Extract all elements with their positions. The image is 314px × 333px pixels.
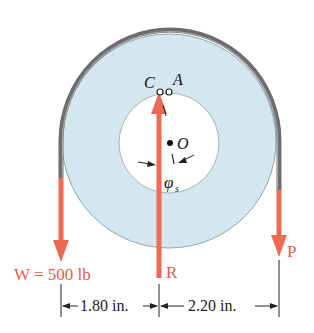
label-dim-left: 1.80 in. (80, 297, 128, 314)
dim-right-arrowhead-a (160, 303, 168, 309)
point-a-marker (166, 89, 172, 95)
label-point-a: A (172, 71, 183, 88)
dim-left-arrowhead-a (62, 303, 70, 309)
dim-left-arrowhead-b (150, 303, 158, 309)
label-angle-phi: φ (164, 173, 173, 192)
label-force-r: R (166, 263, 178, 282)
label-force-p: P (287, 242, 296, 261)
dim-right-arrowhead-b (270, 303, 278, 309)
label-weight: W = 500 lb (14, 265, 91, 284)
weight-arrow-head (53, 240, 69, 262)
point-c-marker (157, 89, 163, 95)
label-center-o: O (177, 135, 189, 152)
label-dim-right: 2.20 in. (188, 297, 236, 314)
label-angle-sub: s (175, 183, 179, 194)
label-point-c: C (144, 74, 155, 91)
center-o-dot (167, 140, 173, 146)
p-arrow-head (271, 235, 287, 257)
pulley-friction-diagram: C A O φ s W = 500 lb R P 1.80 in. 2.20 i… (0, 0, 314, 333)
